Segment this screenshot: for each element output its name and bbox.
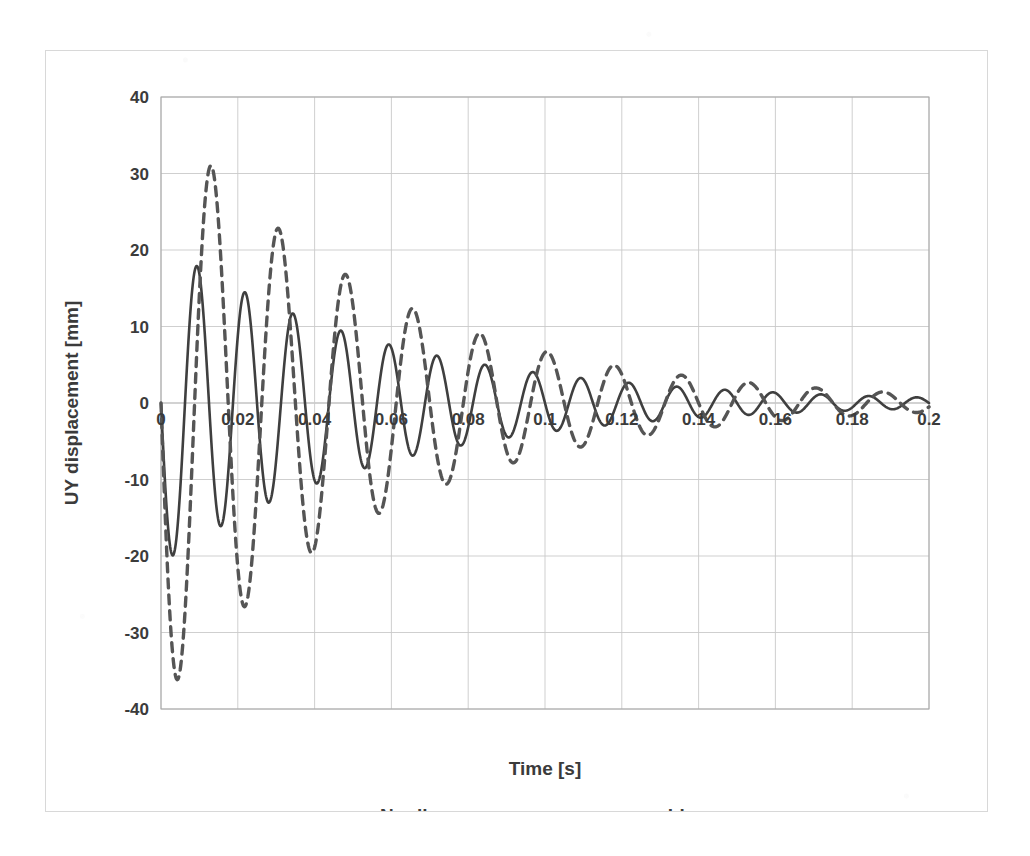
y-tick-label: -10 xyxy=(124,471,149,490)
x-tick-label: 0.1 xyxy=(533,410,557,429)
legend-label-2: Linear response xyxy=(668,805,815,811)
y-tick-label: 10 xyxy=(130,318,149,337)
y-tick-label: -20 xyxy=(124,547,149,566)
x-tick-label: 0.12 xyxy=(605,410,638,429)
x-tick-label: 0.16 xyxy=(759,410,792,429)
y-tick-label: 0 xyxy=(140,394,149,413)
legend: Nonlinear responseLinear response xyxy=(316,805,815,811)
y-tick-label: -30 xyxy=(124,624,149,643)
legend-label-1: Nonlinear response xyxy=(380,805,557,811)
x-tick-label: 0.08 xyxy=(452,410,485,429)
y-tick-label: 30 xyxy=(130,165,149,184)
x-axis-title: Time [s] xyxy=(509,758,582,779)
x-tick-label: 0.06 xyxy=(375,410,408,429)
y-tick-label: 20 xyxy=(130,241,149,260)
chart-canvas: 403020100-10-20-30-4000.020.040.060.080.… xyxy=(46,51,987,811)
x-tick-label: 0.2 xyxy=(917,410,941,429)
x-tick-label: 0.02 xyxy=(221,410,254,429)
x-tick-label: 0.14 xyxy=(682,410,716,429)
chart-figure: 403020100-10-20-30-4000.020.040.060.080.… xyxy=(45,50,988,812)
y-tick-label: 40 xyxy=(130,88,149,107)
x-tick-label: 0 xyxy=(156,410,165,429)
y-axis-title: UY displacement [mm] xyxy=(61,301,82,505)
y-tick-label: -40 xyxy=(124,700,149,719)
x-tick-label: 0.18 xyxy=(836,410,869,429)
x-tick-label: 0.04 xyxy=(298,410,332,429)
